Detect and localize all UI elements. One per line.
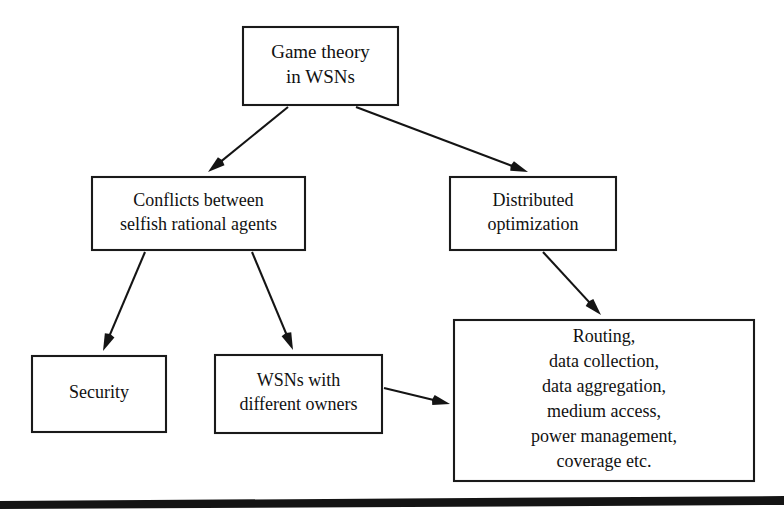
page-footer-rule [0, 496, 784, 509]
node-security: Security [32, 356, 166, 432]
edge-distributed-to-applications [543, 252, 601, 315]
node-distributed-optimization: Distributedoptimization [450, 177, 616, 250]
edge-root-to-distributed [356, 107, 528, 172]
figure-canvas: Game theoryin WSNsConflicts betweenselfi… [0, 0, 784, 517]
edge-root-to-distributed-arrowhead [510, 161, 528, 172]
node-label-wsns-with-different-owners-line-1: WSNs with [257, 370, 341, 390]
flowchart-svg: Game theoryin WSNsConflicts betweenselfi… [0, 0, 784, 517]
node-label-routing-data-collection-applications-line-1: Routing, [573, 326, 636, 346]
edge-conflicts-to-owners-arrowhead [282, 332, 293, 350]
node-label-security-line-1: Security [69, 382, 129, 402]
edge-conflicts-to-security [103, 252, 145, 351]
node-conflicts-between-selfish-rational-agents: Conflicts betweenselfish rational agents [92, 177, 305, 250]
nodes-layer: Game theoryin WSNsConflicts betweenselfi… [32, 27, 754, 481]
node-label-routing-data-collection-applications-line-6: coverage etc. [557, 451, 652, 471]
edge-conflicts-to-owners [252, 252, 293, 350]
edge-root-to-conflicts [208, 107, 288, 172]
node-label-wsns-with-different-owners-line-2: different owners [239, 394, 357, 414]
node-label-conflicts-between-selfish-rational-agents-line-1: Conflicts between [133, 190, 263, 210]
node-label-routing-data-collection-applications-line-4: medium access, [547, 401, 661, 421]
node-game-theory-in-wsns: Game theoryin WSNs [243, 27, 398, 105]
node-label-routing-data-collection-applications-line-3: data aggregation, [542, 376, 666, 396]
node-label-conflicts-between-selfish-rational-agents-line-2: selfish rational agents [120, 214, 277, 234]
edge-conflicts-to-security-arrowhead [103, 333, 114, 351]
node-label-distributed-optimization-line-2: optimization [488, 214, 579, 234]
edge-owners-to-applications [384, 388, 450, 405]
node-label-game-theory-in-wsns-line-2: in WSNs [286, 66, 355, 87]
node-label-distributed-optimization-line-1: Distributed [493, 190, 574, 210]
node-label-routing-data-collection-applications-line-5: power management, [531, 426, 677, 446]
node-label-game-theory-in-wsns-line-1: Game theory [271, 41, 370, 62]
node-routing-data-collection-applications: Routing,data collection,data aggregation… [454, 320, 754, 481]
edge-owners-to-applications-arrowhead [432, 395, 450, 405]
node-wsns-with-different-owners: WSNs withdifferent owners [215, 355, 382, 433]
node-label-routing-data-collection-applications-line-2: data collection, [549, 351, 659, 371]
